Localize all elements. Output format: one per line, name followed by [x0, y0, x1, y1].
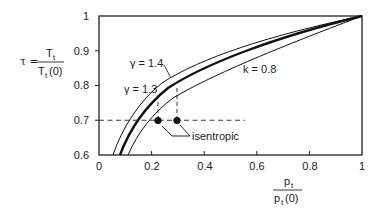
- x-axis-label: p t p t (0): [273, 175, 302, 207]
- x-tick-label: 0: [96, 160, 102, 172]
- x-tick-label: 0.8: [302, 160, 317, 172]
- x-tick-labels: 0 0.2 0.4 0.6 0.8 1: [96, 160, 365, 172]
- y-tick-label: 0.8: [74, 79, 89, 91]
- y-tick-labels: 0.6 0.7 0.8 0.9 1: [74, 10, 89, 161]
- x-tick-label: 1: [359, 160, 365, 172]
- gamma-1.4-leader: [164, 65, 171, 78]
- isentropic-point-1: [154, 117, 161, 124]
- y-tick-label: 0.7: [74, 114, 89, 126]
- y-tick-label: 0.9: [74, 45, 89, 57]
- k-0.8-label: k = 0.8: [243, 63, 276, 75]
- isentropic-label: isentropic: [192, 130, 240, 142]
- gamma-1.3-label: γ = 1.3: [124, 83, 157, 95]
- svg-text:T: T: [38, 65, 45, 77]
- y-axis-label: τ = T t T t (0): [20, 47, 64, 80]
- chart: 0.6 0.7 0.8 0.9 1 0 0.2 0.4 0.6 0.8 1 τ …: [0, 0, 380, 212]
- x-tick-label: 0.6: [249, 160, 264, 172]
- svg-text:t: t: [45, 71, 48, 80]
- x-tick-label: 0.2: [144, 160, 159, 172]
- svg-text:t: t: [281, 198, 284, 207]
- svg-text:(0): (0): [49, 65, 62, 77]
- svg-text:p: p: [274, 192, 280, 204]
- svg-text:(0): (0): [285, 192, 298, 204]
- gamma-1.4-label: γ = 1.4: [130, 57, 163, 69]
- svg-text:p: p: [284, 175, 290, 187]
- isentropic-leader: [162, 125, 190, 136]
- svg-text:t: t: [53, 53, 56, 62]
- svg-text:t: t: [291, 181, 294, 190]
- svg-text:T: T: [46, 47, 53, 59]
- y-tick-label: 0.6: [74, 149, 89, 161]
- isentropic-point-2: [173, 117, 180, 124]
- x-tick-label: 0.4: [197, 160, 212, 172]
- curve-k-0.8: [128, 16, 362, 155]
- svg-text:τ =: τ =: [20, 55, 39, 68]
- y-tick-label: 1: [83, 10, 89, 22]
